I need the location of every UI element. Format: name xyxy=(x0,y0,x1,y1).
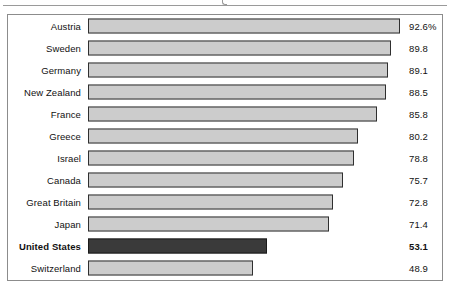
bar-row-label: Canada xyxy=(8,175,81,186)
top-divider-rule xyxy=(3,5,447,6)
bar-row-label: Austria xyxy=(8,21,81,32)
bar-row-label: Great Britain xyxy=(8,197,81,208)
chart-frame: Austria92.6%Sweden89.8Germany89.1New Zea… xyxy=(7,14,443,281)
bar-row-value: 88.5 xyxy=(409,87,428,98)
bar-row-value: 72.8 xyxy=(409,197,428,208)
bar-row-label: New Zealand xyxy=(8,87,81,98)
bar-row: Switzerland48.9 xyxy=(8,257,442,279)
bar-row: Israel78.8 xyxy=(8,147,442,169)
bar xyxy=(88,261,253,276)
bar-track xyxy=(88,151,400,166)
bar xyxy=(88,151,354,166)
bar-row: Japan71.4 xyxy=(8,213,442,235)
bar-row-label: Germany xyxy=(8,65,81,76)
bar-track xyxy=(88,19,400,34)
bar-row-value: 80.2 xyxy=(409,131,428,142)
bar xyxy=(88,63,388,78)
bar-track xyxy=(88,129,400,144)
bar xyxy=(88,41,391,56)
bar-row-value: 53.1 xyxy=(409,241,428,252)
bar xyxy=(88,217,329,232)
bar-track xyxy=(88,173,400,188)
bar-row: Great Britain72.8 xyxy=(8,191,442,213)
bar-row-value: 85.8 xyxy=(409,109,428,120)
bar-row-value: 71.4 xyxy=(409,219,428,230)
bar-track xyxy=(88,85,400,100)
bar-row-value: 92.6% xyxy=(409,21,436,32)
clipped-caption-descender xyxy=(222,0,227,5)
bar-track xyxy=(88,63,400,78)
bar-row-value: 48.9 xyxy=(409,263,428,274)
bar-row: Austria92.6% xyxy=(8,15,442,37)
bar-row-value: 89.1 xyxy=(409,65,428,76)
bar xyxy=(88,107,377,122)
bar-rows-container: Austria92.6%Sweden89.8Germany89.1New Zea… xyxy=(8,15,442,279)
bar-row-value: 75.7 xyxy=(409,175,428,186)
chart-page: Austria92.6%Sweden89.8Germany89.1New Zea… xyxy=(0,0,450,295)
bar-row-label: Switzerland xyxy=(8,263,81,274)
bar xyxy=(88,195,333,210)
bar-track xyxy=(88,107,400,122)
bar-row-value: 78.8 xyxy=(409,153,428,164)
bar-track xyxy=(88,41,400,56)
bar-row-label: France xyxy=(8,109,81,120)
bar-row-label: Sweden xyxy=(8,43,81,54)
bar-row: Germany89.1 xyxy=(8,59,442,81)
bar-row-label: Japan xyxy=(8,219,81,230)
bar-row: Greece80.2 xyxy=(8,125,442,147)
bar xyxy=(88,85,386,100)
bar-track xyxy=(88,261,400,276)
bar xyxy=(88,19,400,34)
bar xyxy=(88,173,343,188)
bar-row: Canada75.7 xyxy=(8,169,442,191)
bar xyxy=(88,129,358,144)
bar-highlighted xyxy=(88,239,267,254)
bar-row-value: 89.8 xyxy=(409,43,428,54)
bar-row: Sweden89.8 xyxy=(8,37,442,59)
bar-row-label: United States xyxy=(8,241,81,252)
bar-row: New Zealand88.5 xyxy=(8,81,442,103)
bar-row-label: Greece xyxy=(8,131,81,142)
bar-row: France85.8 xyxy=(8,103,442,125)
bar-track xyxy=(88,217,400,232)
bar-row: United States53.1 xyxy=(8,235,442,257)
bar-track xyxy=(88,239,400,254)
bar-row-label: Israel xyxy=(8,153,81,164)
bar-track xyxy=(88,195,400,210)
